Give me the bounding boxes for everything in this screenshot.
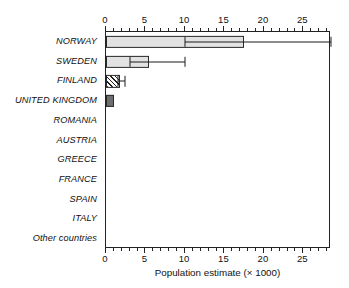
major-tick [263,26,264,31]
minor-tick [318,28,319,31]
x-axis-tick-label: 5 [142,253,147,264]
minor-tick [294,28,295,31]
minor-tick [208,248,209,251]
minor-tick [200,28,201,31]
minor-tick [121,248,122,251]
major-tick [144,26,145,31]
x-axis-tick-label: 5 [142,14,147,25]
minor-tick [160,28,161,31]
minor-tick [192,28,193,31]
minor-tick [326,248,327,251]
bar [106,95,114,107]
minor-tick [216,28,217,31]
minor-tick [239,248,240,251]
minor-tick [121,28,122,31]
minor-tick [137,248,138,251]
minor-tick [168,28,169,31]
minor-tick [168,248,169,251]
x-axis-tick-label: 25 [297,14,308,25]
minor-tick [160,248,161,251]
error-bar [130,61,185,62]
major-tick [302,26,303,31]
error-bar-cap [124,76,125,86]
minor-tick [137,28,138,31]
minor-tick [287,28,288,31]
y-axis-label: FRANCE [59,174,97,184]
minor-tick [152,248,153,251]
y-axis-label: NORWAY [56,36,97,46]
minor-tick [176,248,177,251]
x-axis-tick-label: 25 [297,253,308,264]
x-axis-tick-label: 20 [258,253,269,264]
minor-tick [279,28,280,31]
minor-tick [200,248,201,251]
minor-tick [255,248,256,251]
minor-tick [318,248,319,251]
minor-tick [129,28,130,31]
minor-tick [216,248,217,251]
x-axis-tick-label: 0 [102,253,107,264]
minor-tick [294,248,295,251]
major-tick [223,26,224,31]
minor-tick [176,28,177,31]
x-axis-tick-label: 0 [102,14,107,25]
error-bar-cap [117,76,118,86]
minor-tick [152,28,153,31]
minor-tick [247,28,248,31]
y-axis-label: SWEDEN [56,56,97,66]
y-axis-label: ROMANIA [53,115,97,125]
y-axis-label: Other countries [33,233,97,243]
y-axis-label: ITALY [72,213,97,223]
x-axis-tick-label: 15 [218,253,229,264]
error-bar-cap [129,56,130,66]
error-bar-cap [331,37,332,47]
minor-tick [239,28,240,31]
x-axis-tick-label: 15 [218,14,229,25]
x-axis-tick-label: 10 [179,253,190,264]
minor-tick [247,248,248,251]
y-axis-label: UNITED KINGDOM [15,95,97,105]
minor-tick [113,28,114,31]
x-axis-tick-label: 10 [179,14,190,25]
minor-tick [271,28,272,31]
x-axis-tick-label: 20 [258,14,269,25]
minor-tick [279,248,280,251]
minor-tick [287,248,288,251]
minor-tick [326,28,327,31]
error-bar [185,41,331,42]
minor-tick [255,28,256,31]
plot-area [105,31,330,248]
y-axis-category-labels: NORWAYSWEDENFINLANDUNITED KINGDOMROMANIA… [0,31,101,248]
population-estimate-bar-chart: NORWAYSWEDENFINLANDUNITED KINGDOMROMANIA… [0,0,349,288]
y-axis-label: FINLAND [57,75,97,85]
minor-tick [208,28,209,31]
minor-tick [231,248,232,251]
minor-tick [310,28,311,31]
y-axis-label: GREECE [58,154,97,164]
minor-tick [231,28,232,31]
y-axis-label: AUSTRIA [56,135,97,145]
minor-tick [113,248,114,251]
major-tick [105,26,106,31]
minor-tick [271,248,272,251]
major-tick [184,26,185,31]
y-axis-label: SPAIN [70,194,97,204]
x-axis-title: Population estimate (× 1000) [105,267,330,278]
minor-tick [310,248,311,251]
error-bar-cap [184,56,185,66]
minor-tick [129,248,130,251]
minor-tick [192,248,193,251]
error-bar-cap [184,37,185,47]
